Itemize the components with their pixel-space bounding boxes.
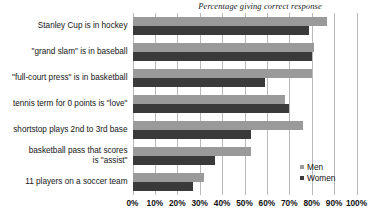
legend-item: Men [300,161,335,172]
x-axis-tick-labels: 0%10%20%30%40%50%60%70%80%90%100% [133,198,357,212]
bar-men [133,17,328,26]
bar-men [133,147,252,156]
bar-women [133,26,310,35]
category-label: basketball pass that scoresis "assist" [29,146,128,166]
category-label-line: shortstop plays 2nd to 3rd base [13,125,127,135]
bar-women [133,130,252,139]
category-label-line: is "assist" [29,156,128,166]
bar-men [133,95,285,104]
bar-men [133,121,303,130]
category-label-line: Stanley Cup is in hockey [38,21,128,31]
legend-swatch-icon [300,176,304,180]
legend-label: Men [307,162,323,172]
legend-label: Women [307,173,335,183]
x-tick-label: 60% [259,198,276,208]
x-tick-label: 70% [281,198,298,208]
bar-group [133,43,357,61]
gridline [357,13,358,195]
category-label: "full-court press" is in basketball [12,73,127,83]
category-label: tennis term for 0 points is "love" [13,99,128,109]
bar-women [133,78,265,87]
x-tick-label: 0% [127,198,139,208]
category-label: 11 players on a soccer team [25,177,127,187]
chart-legend: MenWomen [300,161,335,183]
bar-women [133,182,193,191]
legend-item: Women [300,172,335,183]
bar-chart: Percentage giving correct response Stanl… [0,0,374,219]
category-label: Stanley Cup is in hockey [38,21,128,31]
category-label-line: "full-court press" is in basketball [12,73,127,83]
bar-women [133,52,312,61]
legend-swatch-icon [300,165,304,169]
bar-group [133,121,357,139]
bar-men [133,43,314,52]
category-label-line: tennis term for 0 points is "love" [13,99,128,109]
bar-men [133,173,205,182]
x-tick-label: 100% [346,198,367,208]
x-tick-label: 10% [147,198,164,208]
x-tick-label: 40% [214,198,231,208]
bar-men [133,69,312,78]
bar-group [133,17,357,35]
x-tick-label: 30% [191,198,208,208]
category-label-line: "grand slam" is in baseball [32,47,128,57]
category-axis-labels: Stanley Cup is in hockey"grand slam" is … [0,13,133,195]
x-tick-label: 20% [169,198,186,208]
category-label-line: basketball pass that scores [29,146,128,156]
bar-group [133,95,357,113]
bar-women [133,156,216,165]
x-tick-label: 80% [303,198,320,208]
x-tick-label: 50% [236,198,253,208]
bar-group [133,69,357,87]
category-label: shortstop plays 2nd to 3rd base [13,125,127,135]
chart-title: Percentage giving correct response [160,1,360,11]
x-tick-label: 90% [326,198,343,208]
category-label: "grand slam" is in baseball [32,47,128,57]
category-label-line: 11 players on a soccer team [25,177,127,187]
bar-women [133,104,290,113]
